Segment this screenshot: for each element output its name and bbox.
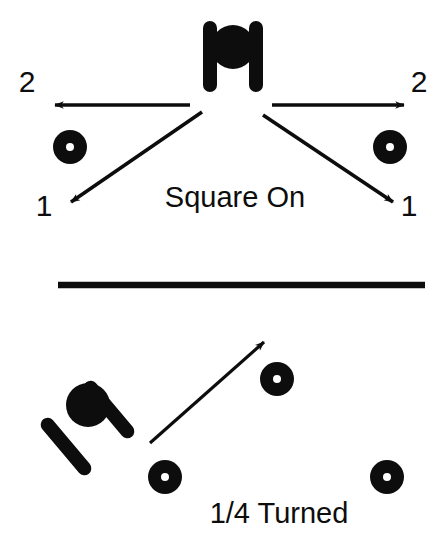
cone-marker-hole bbox=[161, 473, 169, 481]
cone-marker-upper-right bbox=[260, 362, 294, 396]
cone-marker-right bbox=[373, 130, 407, 164]
cone-marker-hole bbox=[383, 473, 391, 481]
cone-marker-hole bbox=[273, 375, 281, 383]
diagram-canvas: 2 2 1 1 Square On bbox=[0, 0, 447, 556]
player-square-on bbox=[203, 21, 263, 92]
label-one-left: 1 bbox=[36, 189, 53, 222]
cone-marker-hole bbox=[66, 143, 74, 151]
arrow-quarter-turned-diagonal bbox=[150, 342, 264, 443]
panel-quarter-turned: 1/4 Turned bbox=[38, 342, 404, 529]
caption-square-on: Square On bbox=[165, 181, 305, 213]
caption-quarter-turned: 1/4 Turned bbox=[210, 497, 349, 529]
label-one-right: 1 bbox=[401, 189, 418, 222]
cone-marker-left bbox=[53, 130, 87, 164]
stance-diagram: 2 2 1 1 Square On bbox=[0, 0, 447, 556]
cone-marker-bottom-right bbox=[370, 460, 404, 494]
cone-marker-bottom-left bbox=[148, 460, 182, 494]
label-two-left: 2 bbox=[19, 65, 36, 98]
head-circle bbox=[211, 25, 255, 69]
right-arm-bar bbox=[249, 21, 263, 92]
markers-square-on bbox=[53, 130, 407, 164]
cone-marker-hole bbox=[386, 143, 394, 151]
markers-quarter-turned bbox=[148, 362, 404, 494]
player-quarter-turned bbox=[38, 378, 137, 478]
label-two-right: 2 bbox=[411, 65, 428, 98]
panel-square-on: 2 2 1 1 Square On bbox=[19, 21, 428, 222]
